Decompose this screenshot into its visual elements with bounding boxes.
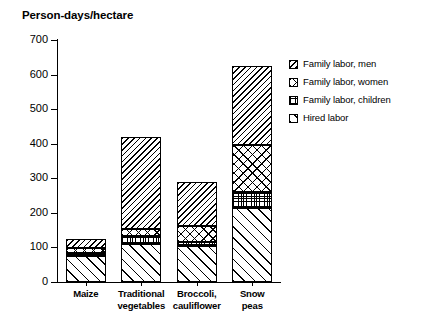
y-axis-labels: 0100200300400500600700: [0, 0, 48, 322]
bar-segment[interactable]: [177, 182, 217, 226]
legend-item[interactable]: Family labor, women: [289, 75, 421, 90]
bar-segment[interactable]: [121, 244, 161, 282]
legend-item[interactable]: Family labor, men: [289, 57, 421, 72]
bar-segment[interactable]: [66, 256, 106, 282]
legend-item-label: Family labor, men: [303, 59, 376, 69]
y-axis-tick-label: 600: [2, 69, 48, 80]
x-axis-tick: [86, 282, 87, 286]
bar-segment[interactable]: [66, 248, 106, 252]
bar-segment[interactable]: [177, 242, 217, 246]
legend-item-label: Family labor, women: [303, 77, 388, 87]
bar-segment[interactable]: [177, 226, 217, 242]
bar-segment[interactable]: [121, 236, 161, 244]
x-axis-tick: [141, 282, 142, 286]
plot-area: [58, 40, 280, 282]
bar-stack[interactable]: [177, 40, 217, 282]
bar-segment[interactable]: [66, 253, 106, 256]
bar-stack[interactable]: [232, 40, 272, 282]
legend-item[interactable]: Family labor, children: [289, 93, 421, 108]
legend-item[interactable]: Hired labor: [289, 111, 421, 126]
x-axis-line: [57, 282, 281, 283]
y-axis-tick-label: 400: [2, 138, 48, 149]
bar-segment[interactable]: [232, 208, 272, 282]
bar-segment[interactable]: [121, 137, 161, 230]
x-axis-tick: [197, 282, 198, 286]
bar-segment[interactable]: [121, 229, 161, 236]
x-axis-label-line: Snow: [207, 288, 297, 300]
y-axis-tick-label: 700: [2, 34, 48, 45]
y-axis-tick-label: 300: [2, 172, 48, 183]
y-axis-tick-label: 500: [2, 103, 48, 114]
bar-segment[interactable]: [232, 192, 272, 208]
bar-stack[interactable]: [121, 40, 161, 282]
bar-segment[interactable]: [232, 66, 272, 146]
legend-swatch-icon: [289, 96, 298, 105]
x-axis-tick: [252, 282, 253, 286]
chart-container: Person-days/hectare 01002003004005006007…: [0, 0, 424, 322]
legend-swatch-icon: [289, 60, 298, 69]
y-axis-tick-label: 200: [2, 207, 48, 218]
x-axis-label-line: peas: [207, 300, 297, 312]
legend-item-label: Hired labor: [303, 113, 348, 123]
bar-segment[interactable]: [232, 145, 272, 192]
y-axis-tick-label: 0: [2, 276, 48, 287]
x-axis-category-label: Snowpeas: [207, 288, 297, 311]
bar-segment[interactable]: [66, 239, 106, 249]
legend-swatch-icon: [289, 114, 298, 123]
bar-segment[interactable]: [177, 246, 217, 282]
y-axis-tick-label: 100: [2, 241, 48, 252]
legend-swatch-icon: [289, 78, 298, 87]
chart-legend: Family labor, menFamily labor, womenFami…: [289, 57, 421, 129]
bar-stack[interactable]: [66, 40, 106, 282]
legend-item-label: Family labor, children: [303, 95, 391, 105]
